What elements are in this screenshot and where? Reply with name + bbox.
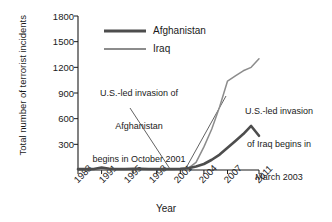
y-axis-ticks [74, 16, 78, 144]
series-line-afghanistan [78, 126, 259, 169]
axis-lines [78, 16, 259, 170]
series-line-iraq [78, 59, 259, 170]
plot-area [0, 0, 332, 222]
x-axis-ticks [78, 170, 259, 174]
annotation-leader-line-afghanistan [130, 108, 170, 169]
terrorist-incidents-line-chart: Total number of terrorist incidents 1800… [0, 0, 332, 222]
